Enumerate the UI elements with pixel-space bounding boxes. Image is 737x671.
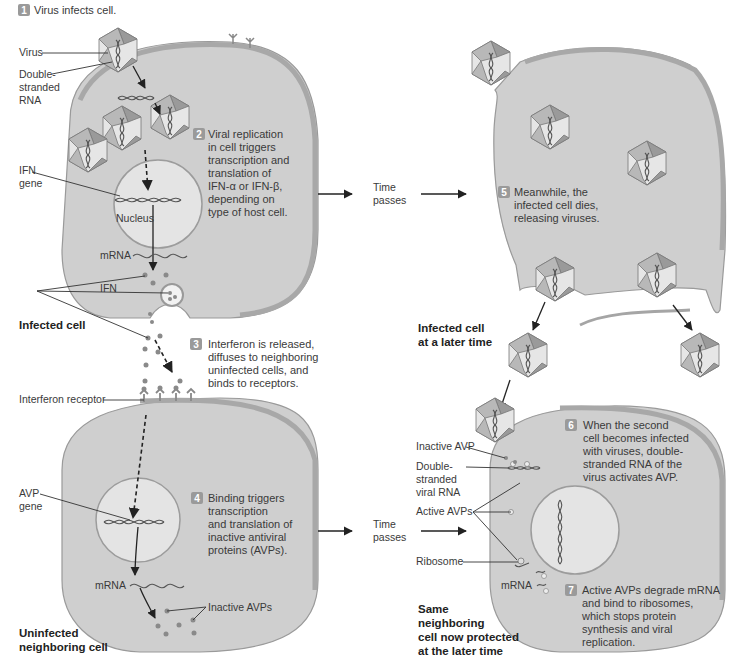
- label-ds-viral-rna-3: viral RNA: [416, 486, 460, 498]
- step-number: 1: [21, 5, 27, 16]
- label-mrna: mRNA: [501, 579, 532, 591]
- label-ds-rna: Double-: [19, 68, 56, 80]
- step-text: proteins (AVPs).: [208, 544, 287, 556]
- label-nucleus: Nucleus: [116, 212, 154, 224]
- step-text: synthesis and viral: [582, 623, 673, 635]
- title-infected-cell: Infected cell: [19, 319, 85, 331]
- step-text: with viruses, double-: [582, 445, 684, 457]
- infected-cell-later: [472, 41, 726, 325]
- step-number: 3: [193, 339, 199, 350]
- released-virus-icon: [681, 333, 719, 377]
- time-passes-label-2: passes: [373, 531, 406, 543]
- label-mrna: mRNA: [95, 579, 126, 591]
- label-active-avps: Active AVPs: [416, 505, 472, 517]
- released-virus-icon: [509, 333, 547, 377]
- step-3: 3 Interferon is released, diffuses to ne…: [190, 338, 319, 389]
- step-text: Interferon is released,: [208, 338, 314, 350]
- title-protected-cell-3: cell now protected: [418, 631, 519, 643]
- title-infected-later: Infected cell: [418, 322, 484, 334]
- title-infected-later-2: at a later time: [418, 336, 492, 348]
- step-text: binds to receptors.: [208, 377, 299, 389]
- step-number: 6: [568, 420, 574, 431]
- step-text: diffuses to neighboring: [208, 351, 319, 363]
- label-ribosome: Ribosome: [416, 555, 463, 567]
- time-passes-label-2: passes: [373, 194, 406, 206]
- step-number: 5: [501, 187, 507, 198]
- label-inactive-avps: Inactive AVPs: [208, 601, 272, 613]
- title-protected-cell-4: at the later time: [418, 645, 503, 657]
- step-text: in cell triggers: [208, 141, 276, 153]
- step-text: stranded RNA of the: [583, 458, 682, 470]
- step-text: Virus infects cell.: [34, 4, 116, 16]
- label-ds-rna-2: stranded: [19, 81, 60, 93]
- label-ifn: IFN: [100, 282, 117, 294]
- step-text: When the second: [583, 419, 669, 431]
- step-5: 5 Meanwhile, the infected cell dies, rel…: [498, 186, 600, 224]
- label-interferon-receptor: Interferon receptor: [19, 393, 106, 405]
- label-ifn-gene: IFN: [19, 164, 36, 176]
- step-text: infected cell dies,: [514, 199, 598, 211]
- step-text: releasing viruses.: [514, 212, 600, 224]
- step-text: Binding triggers: [208, 492, 285, 504]
- step-text: replication.: [582, 636, 635, 648]
- step-text: virus activates AVP.: [583, 471, 678, 483]
- vesicle-icon: [161, 284, 183, 306]
- interferon-diagram: 1 Virus infects cell. Virus Double- stra…: [0, 0, 737, 671]
- label-ds-viral-rna: Double-: [416, 460, 453, 472]
- virus-icon: [472, 41, 510, 85]
- label-ds-rna-3: RNA: [19, 94, 41, 106]
- label-virus: Virus: [19, 46, 43, 58]
- step-text: transcription: [208, 505, 268, 517]
- step-text: Viral replication: [208, 128, 283, 140]
- label-inactive-avp: Inactive AVP: [416, 440, 475, 452]
- step-text: depending on: [208, 193, 275, 205]
- label-avp-gene: AVP: [19, 487, 39, 499]
- step-text: transcription and: [208, 154, 289, 166]
- title-protected-cell-2: neighboring: [418, 617, 484, 629]
- step-text: inactive antiviral: [208, 531, 286, 543]
- step-text: Meanwhile, the: [514, 186, 588, 198]
- nucleus: [114, 160, 202, 248]
- ifn-diffusing: [143, 334, 183, 384]
- step-text: Active AVPs degrade mRNA: [582, 584, 721, 596]
- time-passes-label: Time: [373, 518, 396, 530]
- title-protected-cell: Same: [418, 603, 449, 615]
- title-uninfected-cell-2: neighboring cell: [19, 641, 108, 653]
- step-text: and bind to ribosomes,: [582, 597, 693, 609]
- label-mrna: mRNA: [100, 249, 131, 261]
- step-number: 4: [194, 493, 200, 504]
- step-text: IFN-α or IFN-β,: [208, 180, 282, 192]
- nucleus: [531, 486, 619, 574]
- step-text: and translation of: [208, 518, 293, 530]
- title-uninfected-cell: Uninfected: [19, 627, 78, 639]
- step-1: 1 Virus infects cell.: [18, 4, 116, 16]
- step-text: which stops protein: [581, 610, 676, 622]
- label-avp-gene-2: gene: [19, 500, 43, 512]
- step-text: type of host cell.: [208, 206, 288, 218]
- label-ds-viral-rna-2: stranded: [416, 473, 457, 485]
- time-passes-label: Time: [373, 181, 396, 193]
- label-ifn-gene-2: gene: [19, 177, 43, 189]
- step-text: translation of: [208, 167, 272, 179]
- step-number: 2: [196, 129, 202, 140]
- infected-cell: [62, 34, 318, 324]
- step-text: cell becomes infected: [583, 432, 689, 444]
- step-text: uninfected cells, and: [208, 364, 308, 376]
- step-number: 7: [568, 585, 574, 596]
